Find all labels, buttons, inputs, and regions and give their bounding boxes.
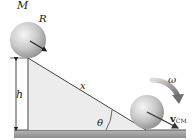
omega-label: ω: [168, 75, 176, 85]
velocity-label: vCM: [170, 114, 187, 124]
incline-diagram: M R h x θ ω vCM: [0, 0, 196, 140]
mass-label: M: [17, 0, 28, 11]
distance-label: x: [80, 81, 86, 91]
ground: [14, 130, 186, 138]
top-sphere: [10, 22, 46, 58]
radius-label: R: [39, 14, 47, 24]
height-label: h: [16, 89, 23, 100]
angle-label: θ: [97, 118, 103, 128]
velocity-subscript: CM: [176, 117, 187, 124]
incline-wedge: [28, 58, 146, 130]
